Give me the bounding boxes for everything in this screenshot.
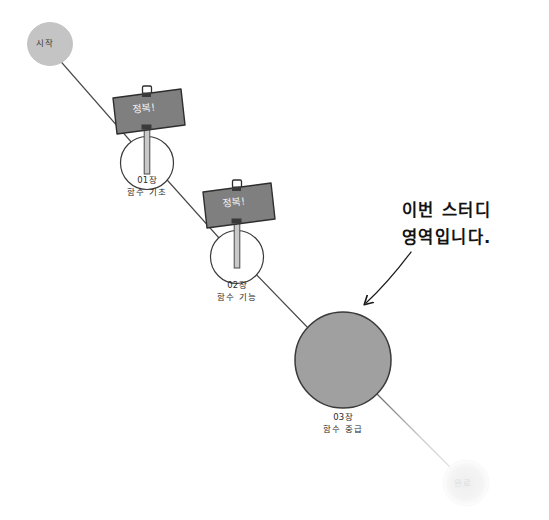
chapter-02-label: 02장 함수 기능 <box>201 279 273 304</box>
chapter-01-label: 01장 함수 기초 <box>111 174 183 199</box>
chapter-01-sign-label: 정복! <box>131 99 156 117</box>
chapter-03-chapter: 03장 <box>307 411 379 423</box>
chapter-02-chapter: 02장 <box>201 279 273 291</box>
chapter-03-node-shape[interactable] <box>295 312 391 408</box>
start-node-label: 시작 <box>36 36 53 48</box>
curved-arrow-icon <box>366 252 411 303</box>
chapter-03-title: 함수 중급 <box>307 423 379 435</box>
chapter-01-title: 함수 기초 <box>111 186 183 198</box>
annotation-line-1: 이번 스터디 <box>402 198 492 225</box>
roadmap-graphics <box>0 0 549 520</box>
roadmap-canvas: 시작 완료 정복! 정복! 01장 함수 기초 02장 함수 기능 03장 함수… <box>0 0 549 520</box>
chapter-03-label: 03장 함수 중급 <box>307 411 379 436</box>
path-ch3-to-end <box>377 394 455 472</box>
chapter-02-title: 함수 기능 <box>201 291 273 303</box>
end-node-label: 완료 <box>454 476 471 488</box>
annotation-line-2: 영역입니다. <box>402 225 492 252</box>
study-area-annotation: 이번 스터디 영역입니다. <box>402 198 492 251</box>
chapter-02-sign-label: 정복! <box>221 193 246 211</box>
chapter-01-chapter: 01장 <box>111 174 183 186</box>
